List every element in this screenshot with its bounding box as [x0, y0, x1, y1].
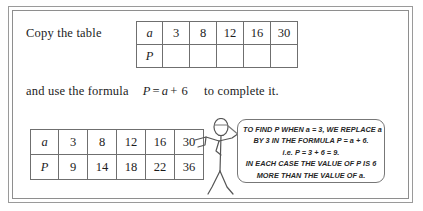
instruction-formula-line: and use the formulaP=a+6to complete it. — [26, 84, 279, 99]
formula-expression: P=a+6 — [143, 84, 190, 98]
table-completed-a-1: 8 — [88, 130, 117, 155]
table-row: P 9 14 18 22 36 — [31, 155, 204, 180]
speech-bubble-line-5: MORE THAN THE VALUE OF a. — [243, 170, 379, 181]
table-blank-a-2: 12 — [217, 22, 244, 45]
table-blank: a 3 8 12 16 30 P — [136, 21, 298, 68]
table-blank-p-0[interactable] — [163, 45, 190, 68]
speech-bubble-line-4: IN EACH CASE THE VALUE OF P IS 6 — [243, 158, 379, 169]
table-completed-p-2: 18 — [117, 155, 146, 180]
table-blank-a-0: 3 — [163, 22, 190, 45]
table-completed-a-0: 3 — [59, 130, 88, 155]
instruction-copy-the-table: Copy the table — [26, 26, 102, 41]
table-blank-p-2[interactable] — [217, 45, 244, 68]
table-blank-a-1: 8 — [190, 22, 217, 45]
table-row: P — [137, 45, 298, 68]
table-blank-label-p: P — [137, 45, 163, 68]
table-completed-label-a: a — [31, 130, 59, 155]
stick-figure-leg-left — [208, 171, 220, 194]
table-blank-p-1[interactable] — [190, 45, 217, 68]
table-completed-p-1: 14 — [88, 155, 117, 180]
table-row: a 3 8 12 16 30 — [31, 130, 204, 155]
table-blank-a-3: 16 — [244, 22, 271, 45]
formula-suffix: to complete it. — [204, 84, 279, 98]
formula-prefix: and use the formula — [26, 84, 129, 98]
speech-bubble-line-2: BY 3 IN THE FORMULA P = a + 6. — [243, 135, 379, 146]
table-completed: a 3 8 12 16 30 P 9 14 18 22 36 — [30, 129, 204, 180]
formula-equals: = — [151, 84, 162, 98]
table-completed-a-2: 12 — [117, 130, 146, 155]
table-completed-a-3: 16 — [146, 130, 175, 155]
table-blank-p-3[interactable] — [244, 45, 271, 68]
table-blank-p-4[interactable] — [271, 45, 298, 68]
table-row: a 3 8 12 16 30 — [137, 22, 298, 45]
speech-bubble: TO FIND P WHEN a = 3, WE REPLACE a BY 3 … — [237, 119, 385, 183]
table-completed-label-p: P — [31, 155, 59, 180]
table-blank-label-a: a — [137, 22, 163, 45]
table-completed-p-0: 9 — [59, 155, 88, 180]
formula-constant: 6 — [180, 84, 190, 98]
formula-lhs: P — [143, 84, 151, 98]
formula-plus: + — [168, 84, 179, 98]
speech-bubble-line-3: i.e. P = 3 + 6 = 9. — [243, 147, 379, 158]
stick-figure-leg-right — [220, 171, 233, 194]
speech-bubble-line-1: TO FIND P WHEN a = 3, WE REPLACE a — [243, 124, 379, 135]
table-completed-p-3: 22 — [146, 155, 175, 180]
worksheet-page: Copy the table a 3 8 12 16 30 P and use … — [0, 0, 423, 211]
table-blank-a-4: 30 — [271, 22, 298, 45]
